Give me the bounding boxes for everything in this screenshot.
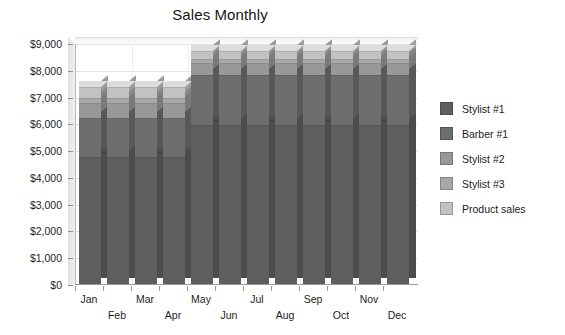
bar-segment[interactable] bbox=[331, 75, 353, 125]
bar-segment[interactable] bbox=[303, 75, 325, 125]
x-tick-label: Aug bbox=[276, 309, 295, 321]
bar-column[interactable] bbox=[387, 43, 409, 284]
legend-label: Product sales bbox=[462, 203, 526, 215]
x-tick-label: Oct bbox=[333, 309, 349, 321]
bar-segment[interactable] bbox=[247, 125, 269, 284]
bar-segment-face bbox=[247, 75, 269, 125]
bar-segment[interactable] bbox=[135, 118, 157, 157]
x-tick-label: Sep bbox=[304, 293, 323, 305]
bar-column[interactable] bbox=[359, 43, 381, 284]
bar-segment[interactable] bbox=[163, 103, 185, 118]
bar-segment[interactable] bbox=[191, 51, 213, 59]
bar-segment[interactable] bbox=[191, 75, 213, 125]
bar-segment[interactable] bbox=[79, 87, 101, 98]
bar-segment[interactable] bbox=[359, 125, 381, 284]
x-tick-label: Apr bbox=[165, 309, 181, 321]
bar-segment[interactable] bbox=[107, 103, 129, 118]
bar-segment[interactable] bbox=[219, 125, 241, 284]
bar-segment[interactable] bbox=[303, 125, 325, 284]
bar-segment[interactable] bbox=[359, 51, 381, 59]
bar-segment[interactable] bbox=[247, 51, 269, 59]
bar-segment[interactable] bbox=[331, 63, 353, 75]
bar-column[interactable] bbox=[163, 43, 185, 284]
legend-label: Barber #1 bbox=[462, 128, 508, 140]
bar-segment[interactable] bbox=[387, 51, 409, 59]
bar-segment[interactable] bbox=[219, 63, 241, 75]
legend-item[interactable]: Stylist #3 bbox=[440, 171, 560, 196]
bar-column[interactable] bbox=[107, 43, 129, 284]
bar-segment[interactable] bbox=[331, 51, 353, 59]
bar-segment-top bbox=[135, 81, 157, 87]
bar-segment[interactable] bbox=[219, 51, 241, 59]
bar-segment-top bbox=[387, 45, 409, 51]
x-tick-label: Jan bbox=[81, 293, 98, 305]
bar-segment[interactable] bbox=[79, 103, 101, 118]
bar-segment-face bbox=[107, 157, 129, 284]
bar-segment-face bbox=[135, 118, 157, 157]
bar-segment[interactable] bbox=[163, 118, 185, 157]
x-tick-label: Jul bbox=[250, 293, 263, 305]
bar-segment[interactable] bbox=[275, 63, 297, 75]
bar-segment[interactable] bbox=[359, 75, 381, 125]
bar-segment[interactable] bbox=[79, 118, 101, 157]
bar-segment-face bbox=[387, 51, 409, 59]
bar-segment[interactable] bbox=[219, 75, 241, 125]
bar-segment-face bbox=[359, 75, 381, 125]
legend-label: Stylist #1 bbox=[462, 103, 505, 115]
bar-segment-face bbox=[107, 118, 129, 157]
bar-segment[interactable] bbox=[387, 63, 409, 75]
bar-segment[interactable] bbox=[107, 87, 129, 98]
legend-item[interactable]: Product sales bbox=[440, 196, 560, 221]
bar-segment[interactable] bbox=[359, 63, 381, 75]
bar-column[interactable] bbox=[79, 43, 101, 284]
bar-segment-face bbox=[331, 125, 353, 284]
legend-item[interactable]: Barber #1 bbox=[440, 121, 560, 146]
bar-segment[interactable] bbox=[247, 75, 269, 125]
bar-column[interactable] bbox=[191, 43, 213, 284]
x-tick-mark bbox=[243, 286, 244, 291]
bar-column[interactable] bbox=[303, 43, 325, 284]
bar-segment[interactable] bbox=[135, 157, 157, 284]
bar-segment[interactable] bbox=[303, 63, 325, 75]
bar-segment[interactable] bbox=[135, 103, 157, 118]
bar-segment[interactable] bbox=[135, 87, 157, 98]
bar-segment[interactable] bbox=[191, 125, 213, 284]
bar-segment[interactable] bbox=[79, 157, 101, 284]
bar-segment[interactable] bbox=[107, 118, 129, 157]
bar-segment-top bbox=[163, 81, 185, 87]
bar-segment[interactable] bbox=[163, 87, 185, 98]
bar-column[interactable] bbox=[275, 43, 297, 284]
bar-segment[interactable] bbox=[275, 75, 297, 125]
bar-segment[interactable] bbox=[191, 63, 213, 75]
bar-column[interactable] bbox=[247, 43, 269, 284]
bar-segment-face bbox=[107, 87, 129, 98]
plot-area bbox=[75, 44, 418, 285]
bar-segment[interactable] bbox=[387, 125, 409, 284]
bar-segment-face bbox=[303, 63, 325, 75]
legend-item[interactable]: Stylist #1 bbox=[440, 96, 560, 121]
bar-segment[interactable] bbox=[107, 157, 129, 284]
bar-segment-face bbox=[275, 75, 297, 125]
x-tick-label: Jun bbox=[221, 309, 238, 321]
bar-column[interactable] bbox=[135, 43, 157, 284]
bar-segment[interactable] bbox=[387, 75, 409, 125]
bar-column[interactable] bbox=[219, 43, 241, 284]
bar-segment[interactable] bbox=[275, 51, 297, 59]
legend-item[interactable]: Stylist #2 bbox=[440, 146, 560, 171]
legend-label: Stylist #3 bbox=[462, 178, 505, 190]
bar-segment-face bbox=[219, 125, 241, 284]
x-tick-mark bbox=[383, 286, 384, 291]
bar-segment-face bbox=[219, 51, 241, 59]
bar-segment-face bbox=[219, 75, 241, 125]
x-tick-mark bbox=[75, 286, 76, 291]
x-tick-label: Mar bbox=[136, 293, 154, 305]
bar-segment[interactable] bbox=[303, 51, 325, 59]
bar-segment-face bbox=[275, 51, 297, 59]
bar-column[interactable] bbox=[331, 43, 353, 284]
bar-segment[interactable] bbox=[331, 125, 353, 284]
bar-segment-face bbox=[387, 125, 409, 284]
bar-segment[interactable] bbox=[163, 157, 185, 284]
bar-segment[interactable] bbox=[247, 63, 269, 75]
bar-segment-face bbox=[275, 125, 297, 284]
bar-segment[interactable] bbox=[275, 125, 297, 284]
